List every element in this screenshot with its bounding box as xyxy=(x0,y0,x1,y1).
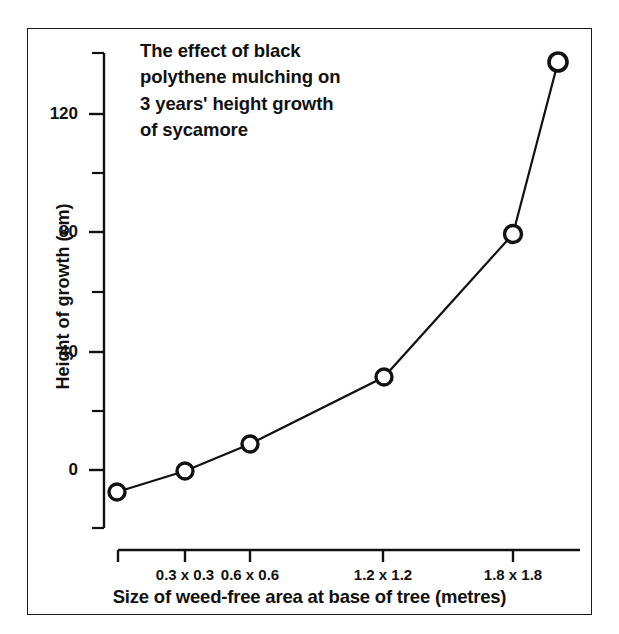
figure-container: The effect of black polythene mulching o… xyxy=(0,0,619,634)
y-tick-label-80: 80 xyxy=(32,222,78,242)
chart-title: The effect of black polythene mulching o… xyxy=(140,38,440,143)
x-tick-label-1.8: 1.8 x 1.8 xyxy=(484,566,542,583)
chart-title-line-1: The effect of black xyxy=(140,38,440,64)
x-tick-label-0.3: 0.3 x 0.3 xyxy=(156,566,214,583)
y-axis-label: Height of growth (cm) xyxy=(53,182,74,412)
data-point-marker xyxy=(376,369,392,385)
data-point-marker xyxy=(549,53,567,71)
data-point-marker xyxy=(505,226,522,243)
y-tick-label-40: 40 xyxy=(32,342,78,362)
chart-title-line-2: polythene mulching on xyxy=(140,64,440,90)
data-point-marker xyxy=(242,436,258,452)
x-axis-label: Size of weed-free area at base of tree (… xyxy=(27,586,592,608)
x-tick-label-1.2: 1.2 x 1.2 xyxy=(354,566,412,583)
data-point-marker xyxy=(109,484,125,500)
chart-title-line-3: 3 years' height growth xyxy=(140,91,440,117)
data-point-marker xyxy=(177,463,193,479)
chart-title-line-4: of sycamore xyxy=(140,117,440,143)
y-tick-label-0: 0 xyxy=(32,460,78,480)
y-tick-label-120: 120 xyxy=(32,104,78,124)
x-tick-label-0.6: 0.6 x 0.6 xyxy=(221,566,279,583)
